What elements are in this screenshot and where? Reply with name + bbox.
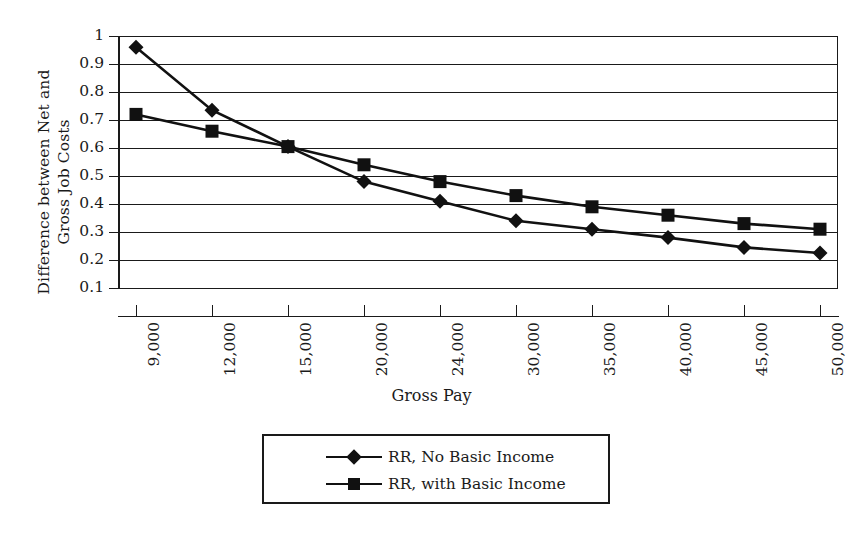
x-axis-title: Gross Pay [0, 386, 863, 405]
x-axis-tick [744, 305, 745, 316]
y-tick-label: 0.3 [60, 224, 104, 240]
legend-label-0: RR, No Basic Income [388, 448, 554, 466]
gridline [118, 288, 838, 289]
series-layer [118, 36, 838, 288]
series-line-0 [136, 47, 820, 253]
y-axis-tick [109, 92, 118, 93]
square-marker-icon [510, 189, 523, 202]
y-axis-tick [109, 288, 118, 289]
y-tick-label: 0.2 [60, 252, 104, 268]
diamond-marker-icon [737, 240, 752, 255]
line-chart: Difference between Net and Gross Job Cos… [0, 0, 863, 541]
y-axis-tick [109, 36, 118, 37]
x-axis-line [118, 316, 839, 317]
x-axis-tick [820, 305, 821, 316]
diamond-marker-icon [585, 222, 600, 237]
plot-area [118, 36, 838, 288]
square-marker-icon [326, 476, 382, 492]
diamond-marker-icon [357, 174, 372, 189]
x-axis-tick [212, 305, 213, 316]
square-marker-icon [282, 140, 295, 153]
diamond-marker-icon [661, 230, 676, 245]
legend-label-1: RR, with Basic Income [388, 475, 566, 493]
square-marker-icon [586, 200, 599, 213]
x-axis-tick [364, 305, 365, 316]
y-axis-tick [109, 148, 118, 149]
legend-item-1[interactable]: RR, with Basic Income [264, 470, 608, 497]
diamond-marker-icon [813, 246, 828, 261]
y-tick-label: 0.7 [60, 112, 104, 128]
y-axis-tick [109, 176, 118, 177]
diamond-marker-icon [509, 213, 524, 228]
x-axis-tick [592, 305, 593, 316]
y-tick-label: 0.4 [60, 196, 104, 212]
y-tick-label: 1 [60, 28, 104, 44]
y-tick-label: 0.6 [60, 140, 104, 156]
square-marker-icon [358, 158, 371, 171]
x-axis-tick [516, 305, 517, 316]
x-axis-tick [440, 305, 441, 316]
x-axis-tick [668, 305, 669, 316]
legend-item-0[interactable]: RR, No Basic Income [264, 443, 608, 470]
diamond-marker-icon [326, 449, 382, 465]
square-marker-icon [738, 217, 751, 230]
y-tick-label: 0.1 [60, 280, 104, 296]
y-axis-tick [109, 120, 118, 121]
square-marker-icon [130, 108, 143, 121]
square-marker-icon [662, 209, 675, 222]
x-axis-tick [136, 305, 137, 316]
y-axis-tick [109, 232, 118, 233]
chart-legend: RR, No Basic Income RR, with Basic Incom… [262, 434, 610, 504]
y-axis-title-line-1: Difference between Net and [34, 70, 54, 295]
square-marker-icon [434, 175, 447, 188]
square-marker-icon [814, 223, 827, 236]
y-tick-label: 0.9 [60, 56, 104, 72]
y-tick-label: 0.8 [60, 84, 104, 100]
diamond-marker-icon [433, 194, 448, 209]
y-tick-label: 0.5 [60, 168, 104, 184]
y-axis-tick-labels: 10.90.80.70.60.50.40.30.20.1 [60, 0, 104, 320]
y-axis-tick [109, 64, 118, 65]
square-marker-icon [206, 125, 219, 138]
y-axis-tick [109, 204, 118, 205]
x-axis-tick [288, 305, 289, 316]
y-axis-tick [109, 260, 118, 261]
